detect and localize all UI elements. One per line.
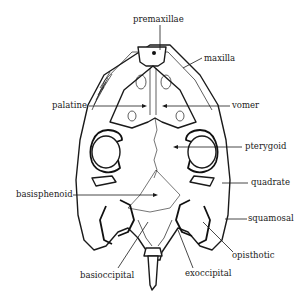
label-pterygoid: pterygoid [245, 142, 286, 151]
premaxilla-bone [138, 47, 166, 66]
label-vomer: vomer [232, 101, 259, 110]
label-maxilla: maxilla [204, 54, 235, 63]
label-quadrate: quadrate [251, 178, 290, 187]
label-squamosal: squamosal [248, 214, 294, 223]
label-opisthotic: opisthotic [232, 251, 275, 260]
label-premaxillae: premaxillae [133, 15, 184, 24]
skull-diagram: premaxillae maxilla palatine vomer ptery… [0, 0, 300, 293]
label-basisphenoid: basisphenoid [16, 190, 73, 199]
label-basioccipital: basioccipital [80, 271, 134, 280]
label-palatine: palatine [52, 101, 87, 110]
label-exoccipital: exoccipital [185, 269, 232, 278]
